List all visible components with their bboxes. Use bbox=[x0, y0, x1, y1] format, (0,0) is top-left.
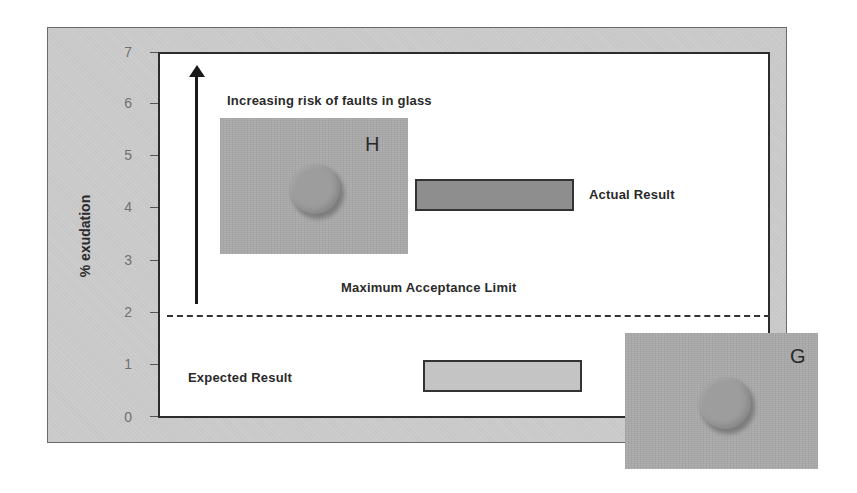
actual-result-bar bbox=[415, 179, 574, 211]
photo-label-h: H bbox=[365, 134, 379, 154]
y-axis-title: % exudation bbox=[77, 195, 93, 277]
tick-label-2: 2 bbox=[112, 305, 132, 319]
tick-mark bbox=[150, 52, 158, 53]
tick-label-4: 4 bbox=[112, 200, 132, 214]
risk-arrow-shaft bbox=[195, 74, 198, 304]
tick-label-3: 3 bbox=[112, 253, 132, 267]
risk-arrow-label: Increasing risk of faults in glass bbox=[227, 93, 432, 108]
tick-label-7: 7 bbox=[112, 45, 132, 59]
limit-label: Maximum Acceptance Limit bbox=[341, 280, 517, 295]
tick-mark bbox=[150, 155, 158, 156]
expected-result-bar bbox=[423, 360, 582, 392]
expected-result-label: Expected Result bbox=[188, 370, 292, 385]
photo-sample-h: H bbox=[220, 118, 408, 254]
photo-sample-g: G bbox=[625, 333, 818, 469]
tick-mark bbox=[150, 312, 158, 313]
tick-mark bbox=[150, 207, 158, 208]
tick-mark bbox=[150, 364, 158, 365]
photo-label-g: G bbox=[790, 346, 806, 366]
arrow-up-icon bbox=[189, 65, 205, 77]
disc-sample-g bbox=[699, 377, 751, 429]
tick-label-6: 6 bbox=[112, 96, 132, 110]
tick-label-5: 5 bbox=[112, 148, 132, 162]
tick-mark bbox=[150, 103, 158, 104]
disc-sample-h bbox=[290, 164, 340, 214]
acceptance-limit-line bbox=[167, 315, 770, 317]
tick-mark bbox=[150, 416, 158, 417]
tick-label-1: 1 bbox=[112, 357, 132, 371]
tick-mark bbox=[150, 260, 158, 261]
tick-label-0: 0 bbox=[112, 410, 132, 424]
actual-result-label: Actual Result bbox=[589, 187, 675, 202]
